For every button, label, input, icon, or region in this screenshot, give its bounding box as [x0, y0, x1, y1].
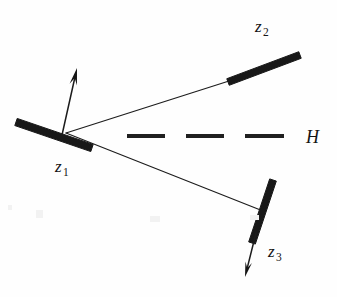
- mirror-z1: [15, 118, 93, 151]
- normal-arrow-z1-shaft: [62, 75, 75, 135]
- label-z1: z 1: [54, 157, 69, 178]
- mirror-z2: [227, 52, 301, 86]
- label-z3-subscript: 3: [276, 251, 282, 263]
- mirror-z2-bar: [227, 52, 301, 86]
- ray-to-z3-line: [66, 133, 263, 211]
- mirror-z3-bar: [249, 179, 277, 244]
- label-z2-subscript: 2: [263, 26, 269, 38]
- label-z2-base: z: [254, 17, 262, 36]
- label-z1-subscript: 1: [63, 166, 69, 178]
- mirror-reflection-diagram: z 1 z 2 z 3 H: [0, 0, 337, 297]
- label-h: H: [305, 127, 320, 147]
- mirror-z1-bar: [15, 118, 93, 151]
- label-z3-base: z: [267, 242, 275, 261]
- label-z2: z 2: [254, 17, 269, 38]
- normal-arrow-z1: [62, 68, 77, 135]
- label-z1-base: z: [54, 157, 62, 176]
- ray-to-z2-line: [66, 81, 229, 133]
- label-z3: z 3: [267, 242, 282, 263]
- mirror-z3: [249, 179, 277, 244]
- figure-root: z 1 z 2 z 3 H: [0, 0, 337, 297]
